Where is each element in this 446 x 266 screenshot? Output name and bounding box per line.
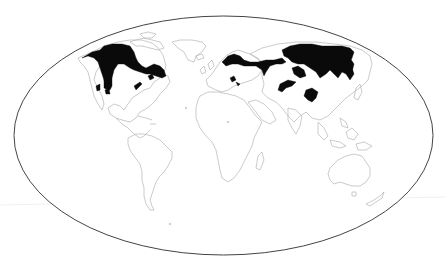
world-map <box>0 0 446 266</box>
globe-outline <box>14 16 433 255</box>
